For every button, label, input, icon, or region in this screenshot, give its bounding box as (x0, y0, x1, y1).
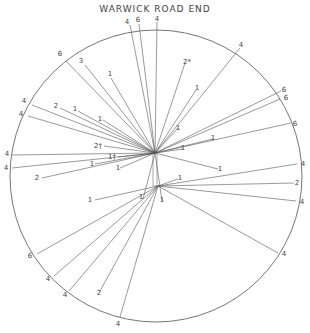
shot-line (158, 183, 294, 186)
shot-line (130, 25, 155, 153)
run-label: 2 (295, 179, 299, 187)
shot-line (158, 186, 278, 253)
shot-line (155, 91, 281, 153)
shot-line (155, 63, 185, 153)
shot-line (78, 111, 155, 153)
run-label: 4 (282, 250, 287, 258)
run-label: 1† (108, 153, 116, 161)
run-label: 4 (5, 150, 10, 158)
shot-line (103, 120, 155, 153)
run-label: 4 (4, 164, 9, 172)
run-label: 6 (284, 94, 289, 102)
run-label: 1 (211, 134, 215, 142)
run-label: 1 (108, 70, 112, 78)
run-label: 1 (195, 84, 199, 92)
shot-line (42, 153, 155, 178)
run-label: 4 (116, 320, 121, 328)
run-label: 1 (116, 164, 120, 172)
shot-line (155, 153, 218, 169)
shot-line (28, 116, 155, 153)
run-label: 4 (155, 15, 160, 23)
shot-line (155, 22, 157, 153)
run-label: 1 (160, 196, 164, 204)
shot-line (111, 78, 155, 153)
run-label: 4 (125, 18, 130, 26)
run-label: 6 (136, 16, 141, 24)
shot-line (155, 153, 162, 201)
run-label: 4 (63, 291, 68, 299)
shot-line (12, 153, 155, 155)
run-label: 1 (88, 196, 92, 204)
shot-line (158, 179, 178, 186)
shot-line (155, 99, 280, 153)
run-label: 4 (22, 97, 27, 105)
run-label: 2 (54, 102, 58, 110)
shot-line (100, 186, 158, 291)
run-label: 2† (94, 142, 102, 150)
run-label: 1 (181, 144, 185, 152)
run-label: 6 (58, 50, 63, 58)
shot-line (155, 90, 196, 153)
run-label: 4 (239, 41, 244, 49)
run-label: 1 (176, 124, 180, 132)
run-label: 2* (183, 58, 191, 66)
shot-line (158, 186, 296, 201)
run-label: 4 (46, 275, 51, 283)
run-labels: 464631421142†41†14212*114666111424411644… (4, 15, 306, 328)
run-label: 1 (178, 174, 182, 182)
shot-line (12, 153, 155, 168)
wagon-wheel-diagram: 464631421142†41†14212*114666111424411644… (0, 0, 310, 333)
shot-lines (12, 22, 297, 317)
shot-line (155, 128, 178, 153)
run-label: 1 (139, 193, 143, 201)
shot-line (85, 65, 155, 153)
shot-line (69, 186, 158, 291)
shot-line (139, 24, 155, 153)
run-label: 4 (300, 198, 305, 206)
run-label: 2 (35, 174, 39, 182)
run-label: 4 (301, 160, 306, 168)
shot-line (120, 186, 158, 317)
run-label: 6 (28, 252, 33, 260)
run-label: 1 (90, 160, 94, 168)
run-label: 1 (218, 165, 222, 173)
run-label: 4 (19, 110, 24, 118)
shot-line (95, 186, 158, 200)
shot-line (120, 153, 155, 168)
run-label: 1 (98, 115, 102, 123)
run-label: 3 (79, 57, 83, 65)
run-label: 6 (282, 86, 287, 94)
run-label: 2 (97, 289, 101, 297)
run-label: 1 (73, 105, 77, 113)
run-label: 6 (293, 120, 298, 128)
